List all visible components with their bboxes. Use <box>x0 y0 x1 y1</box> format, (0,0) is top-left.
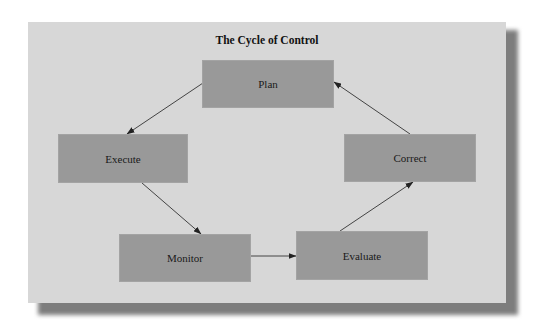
node-correct-label: Correct <box>394 152 427 164</box>
arrow-correct-to-plan <box>334 82 410 134</box>
node-plan: Plan <box>203 61 333 107</box>
arrow-plan-to-execute <box>127 83 203 134</box>
node-execute-label: Execute <box>105 153 140 165</box>
arrow-evaluate-to-correct <box>340 182 413 231</box>
node-monitor: Monitor <box>120 235 250 281</box>
node-evaluate: Evaluate <box>297 232 427 279</box>
arrow-execute-to-monitor <box>142 183 201 234</box>
node-evaluate-label: Evaluate <box>343 250 381 262</box>
node-correct: Correct <box>345 135 475 181</box>
node-execute: Execute <box>59 135 187 182</box>
node-plan-label: Plan <box>258 78 278 90</box>
node-monitor-label: Monitor <box>167 252 203 264</box>
